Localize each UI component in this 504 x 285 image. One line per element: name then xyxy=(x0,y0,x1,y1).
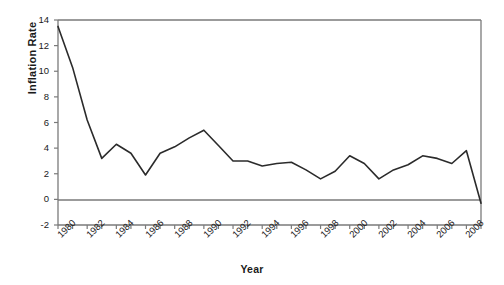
x-axis-title: Year xyxy=(0,263,504,275)
y-tick-label: 2 xyxy=(23,169,49,179)
y-tick-label: 4 xyxy=(23,143,49,153)
y-tick-label: 14 xyxy=(23,15,49,25)
y-tick-label: 8 xyxy=(23,92,49,102)
y-tick-label: 10 xyxy=(23,66,49,76)
y-tick-label: -2 xyxy=(23,220,49,230)
inflation-rate-line-chart: Inflation Rate Year 14121086420-2 198019… xyxy=(0,0,504,285)
inflation-rate-series-line xyxy=(58,26,481,203)
y-tick-label: 12 xyxy=(23,41,49,51)
y-tick-label: 6 xyxy=(23,118,49,128)
y-tick-label: 0 xyxy=(23,194,49,204)
plot-canvas xyxy=(0,0,504,285)
